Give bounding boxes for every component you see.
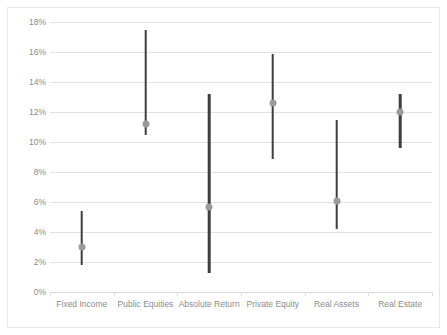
x-axis-tick-mark xyxy=(241,292,242,296)
y-axis-tick-label: 14% xyxy=(2,78,46,87)
midpoint-marker xyxy=(78,244,85,251)
x-axis-tick-mark xyxy=(368,292,369,296)
range-bar xyxy=(144,30,147,135)
midpoint-marker xyxy=(397,109,404,116)
x-axis-category-label: Real Estate xyxy=(378,300,422,309)
x-axis-tick-mark xyxy=(177,292,178,296)
x-axis-tick-mark xyxy=(305,292,306,296)
data-marks-group xyxy=(50,22,432,292)
range-bar xyxy=(335,120,338,230)
range-bar xyxy=(399,94,402,148)
x-axis-tick-mark xyxy=(114,292,115,296)
y-axis-tick-label: 10% xyxy=(2,138,46,147)
y-axis-tick-label: 8% xyxy=(2,168,46,177)
midpoint-marker xyxy=(269,100,276,107)
y-axis-tick-label: 2% xyxy=(2,258,46,267)
y-axis-tick-label: 18% xyxy=(2,18,46,27)
y-axis-tick-labels: 0%2%4%6%8%10%12%14%16%18% xyxy=(0,0,46,335)
range-bar xyxy=(81,211,84,265)
x-axis-category-label: Real Assets xyxy=(314,300,359,309)
midpoint-marker xyxy=(206,203,213,210)
y-axis-tick-label: 12% xyxy=(2,108,46,117)
midpoint-marker xyxy=(142,121,149,128)
y-axis-tick-label: 6% xyxy=(2,198,46,207)
x-axis-tick-mark xyxy=(50,292,51,296)
chart-container: 0%2%4%6%8%10%12%14%16%18% Fixed IncomePu… xyxy=(0,0,447,335)
y-axis-tick-label: 0% xyxy=(2,288,46,297)
x-axis-tick-mark xyxy=(432,292,433,296)
y-axis-tick-label: 16% xyxy=(2,48,46,57)
x-axis-category-label: Public Equities xyxy=(118,300,174,309)
x-axis-category-label: Private Equity xyxy=(247,300,299,309)
midpoint-marker xyxy=(333,197,340,204)
x-axis-category-label: Fixed Income xyxy=(56,300,107,309)
y-axis-tick-label: 4% xyxy=(2,228,46,237)
x-axis-category-label: Absolute Return xyxy=(179,300,240,309)
range-bar xyxy=(208,94,211,273)
